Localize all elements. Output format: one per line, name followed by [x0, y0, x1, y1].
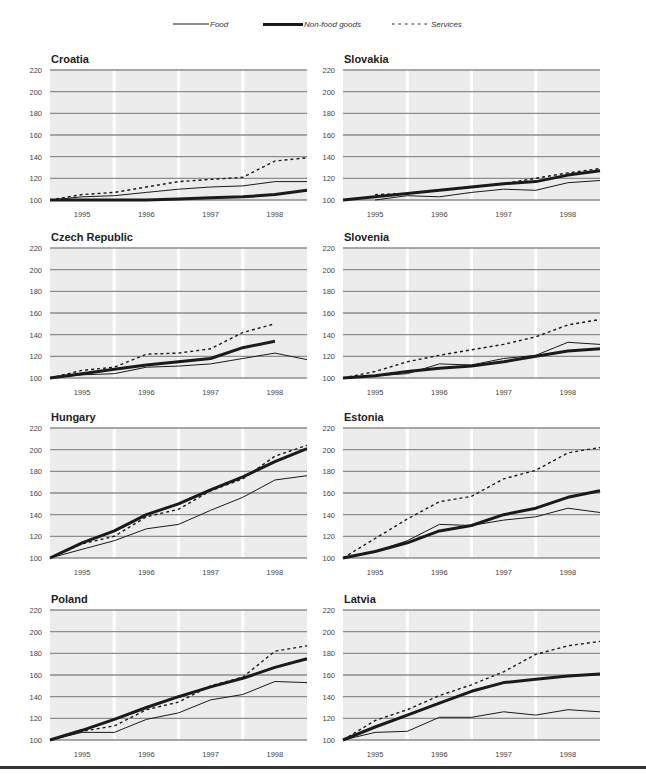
y-tick-label: 100	[29, 554, 42, 563]
y-tick-label: 180	[29, 287, 42, 296]
y-tick-label: 160	[29, 489, 42, 498]
x-tick-label: 1996	[138, 568, 155, 577]
y-tick-label: 100	[322, 196, 335, 205]
chart-legend: Food Non-food goods Services	[0, 14, 646, 34]
y-tick-label: 120	[322, 714, 335, 723]
y-tick-label: 120	[29, 714, 42, 723]
y-tick-label: 200	[322, 628, 335, 637]
y-tick-label: 220	[322, 424, 335, 433]
chart-panel-latvia: Latvia 220200180160140120100199519961997…	[293, 592, 613, 772]
chart-panel-hungary: Hungary 22020018016014012010019951996199…	[0, 410, 320, 590]
y-tick-label: 200	[29, 628, 42, 637]
x-tick-label: 1995	[74, 388, 91, 397]
y-tick-label: 160	[29, 131, 42, 140]
y-tick-label: 100	[322, 554, 335, 563]
legend-food-line-icon	[173, 22, 209, 26]
y-tick-label: 180	[322, 109, 335, 118]
chart-panel-poland: Poland 220200180160140120100199519961997…	[0, 592, 320, 772]
y-tick-label: 160	[322, 309, 335, 318]
y-tick-label: 180	[322, 467, 335, 476]
y-tick-label: 200	[29, 88, 42, 97]
y-tick-label: 200	[322, 446, 335, 455]
x-tick-label: 1997	[495, 568, 512, 577]
y-tick-label: 140	[29, 331, 42, 340]
legend-non-food-goods-line-icon	[263, 22, 303, 27]
x-tick-label: 1995	[367, 210, 384, 219]
x-tick-label: 1996	[431, 210, 448, 219]
y-tick-label: 220	[322, 244, 335, 253]
y-tick-label: 220	[29, 244, 42, 253]
y-tick-label: 120	[322, 174, 335, 183]
line-chart: 2202001801601401201001995199619971998	[0, 592, 320, 772]
x-tick-label: 1998	[560, 210, 577, 219]
y-tick-label: 160	[322, 671, 335, 680]
y-tick-label: 140	[29, 511, 42, 520]
x-tick-label: 1998	[267, 388, 284, 397]
y-tick-label: 140	[322, 331, 335, 340]
x-tick-label: 1995	[367, 750, 384, 759]
y-tick-label: 180	[29, 109, 42, 118]
y-tick-label: 160	[322, 131, 335, 140]
y-tick-label: 220	[29, 424, 42, 433]
x-tick-label: 1998	[267, 750, 284, 759]
x-tick-label: 1997	[495, 210, 512, 219]
x-tick-label: 1997	[495, 750, 512, 759]
legend-label-services: Services	[431, 20, 462, 29]
x-tick-label: 1997	[202, 750, 219, 759]
chart-panel-estonia: Estonia 22020018016014012010019951996199…	[293, 410, 613, 590]
bottom-rule	[0, 766, 646, 769]
legend-services-line-icon	[392, 22, 430, 26]
y-tick-label: 140	[322, 153, 335, 162]
y-tick-label: 220	[322, 66, 335, 75]
x-tick-label: 1996	[431, 388, 448, 397]
x-tick-label: 1995	[74, 750, 91, 759]
y-tick-label: 160	[29, 671, 42, 680]
y-tick-label: 180	[29, 649, 42, 658]
y-tick-label: 120	[322, 532, 335, 541]
x-tick-label: 1998	[560, 750, 577, 759]
y-tick-label: 100	[29, 196, 42, 205]
chart-panel-slovenia: Slovenia 2202001801601401201001995199619…	[293, 230, 613, 410]
y-tick-label: 180	[29, 467, 42, 476]
y-tick-label: 160	[29, 309, 42, 318]
line-chart: 2202001801601401201001995199619971998	[293, 52, 613, 232]
y-tick-label: 220	[29, 66, 42, 75]
y-tick-label: 160	[322, 489, 335, 498]
x-tick-label: 1997	[495, 388, 512, 397]
x-tick-label: 1998	[560, 388, 577, 397]
y-tick-label: 140	[29, 693, 42, 702]
x-tick-label: 1996	[431, 750, 448, 759]
y-tick-label: 100	[322, 736, 335, 745]
x-tick-label: 1996	[138, 750, 155, 759]
legend-label-food: Food	[210, 20, 228, 29]
line-chart: 2202001801601401201001995199619971998	[0, 410, 320, 590]
y-tick-label: 140	[29, 153, 42, 162]
x-tick-label: 1997	[202, 210, 219, 219]
line-chart: 2202001801601401201001995199619971998	[293, 592, 613, 772]
legend-item-non-food-goods: Non-food goods	[263, 14, 361, 34]
y-tick-label: 100	[29, 736, 42, 745]
line-chart: 2202001801601401201001995199619971998	[293, 230, 613, 410]
y-tick-label: 200	[322, 88, 335, 97]
x-tick-label: 1998	[560, 568, 577, 577]
y-tick-label: 100	[322, 374, 335, 383]
x-tick-label: 1995	[367, 388, 384, 397]
y-tick-label: 120	[322, 352, 335, 361]
chart-panel-czech-republic: Czech Republic 2202001801601401201001995…	[0, 230, 320, 410]
x-tick-label: 1995	[74, 210, 91, 219]
line-chart: 2202001801601401201001995199619971998	[0, 52, 320, 232]
x-tick-label: 1997	[202, 388, 219, 397]
y-tick-label: 100	[29, 374, 42, 383]
y-tick-label: 200	[322, 266, 335, 275]
y-tick-label: 120	[29, 174, 42, 183]
chart-panel-croatia: Croatia 22020018016014012010019951996199…	[0, 52, 320, 232]
chart-panel-slovakia: Slovakia 2202001801601401201001995199619…	[293, 52, 613, 232]
x-tick-label: 1998	[267, 568, 284, 577]
y-tick-label: 140	[322, 693, 335, 702]
y-tick-label: 200	[29, 446, 42, 455]
line-chart: 2202001801601401201001995199619971998	[293, 410, 613, 590]
x-tick-label: 1995	[74, 568, 91, 577]
y-tick-label: 220	[322, 606, 335, 615]
x-tick-label: 1998	[267, 210, 284, 219]
legend-label-non-food-goods: Non-food goods	[304, 20, 361, 29]
